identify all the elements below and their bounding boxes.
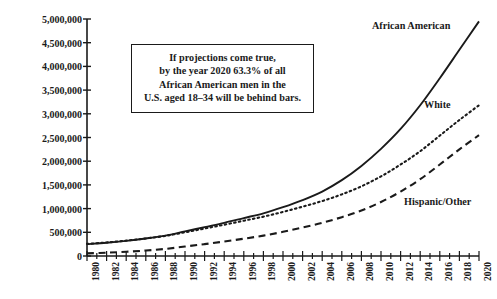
chart-container: Number of People in Custody 5,000,0004,5…	[0, 0, 497, 299]
series-line	[87, 105, 479, 244]
annotation-box: If projections come true, by the year 20…	[131, 44, 314, 113]
series-line	[87, 135, 479, 253]
annotation-line-4: U.S. aged 18–34 will be behind bars.	[136, 91, 309, 104]
annotation-line-3: African American men in the	[136, 78, 309, 91]
series-label-hispanic-other: Hispanic/Other	[404, 196, 471, 207]
series-label-african-american: African American	[372, 20, 450, 31]
annotation-line-1: If projections come true,	[136, 51, 309, 64]
annotation-line-2: by the year 2020 63.3% of all	[136, 64, 309, 77]
series-label-white: White	[424, 99, 451, 110]
